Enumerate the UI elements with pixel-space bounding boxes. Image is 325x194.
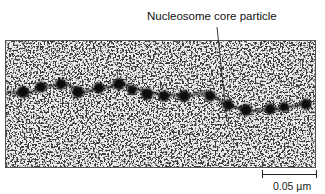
leader-line [0, 0, 325, 194]
scale-bar-right-tick [316, 170, 317, 178]
scale-bar-label: 0.05 µm [273, 180, 311, 192]
scale-bar [262, 170, 317, 178]
scale-bar-line [262, 174, 317, 175]
